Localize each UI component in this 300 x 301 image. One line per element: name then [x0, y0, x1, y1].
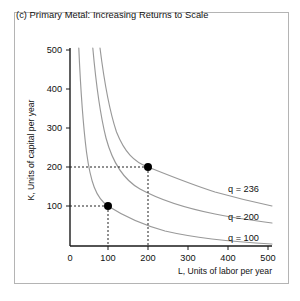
x-tick-label-200: 200 — [140, 253, 155, 263]
y-tick-label-100: 100 — [47, 201, 62, 211]
x-tick-label-100: 100 — [100, 253, 115, 263]
isoquant-chart: 500 400 300 200 100 0 100 200 300 400 50… — [0, 0, 300, 301]
y-tick-label-300: 300 — [47, 123, 62, 133]
y-tick-label-400: 400 — [47, 84, 62, 94]
x-tick-label-0: 0 — [67, 253, 72, 263]
y-tick-label-500: 500 — [47, 45, 62, 55]
curve-label-q200: q = 200 — [228, 212, 259, 222]
x-axis-title: L, Units of labor per year — [178, 266, 272, 276]
y-tick-label-200: 200 — [47, 162, 62, 172]
data-point-b[interactable] — [144, 163, 152, 171]
x-tick-label-400: 400 — [220, 253, 235, 263]
isoquant-curve-q236 — [100, 48, 272, 206]
y-axis-title: K, Units of capital per year — [26, 99, 36, 200]
data-point-a[interactable] — [104, 202, 112, 210]
isoquant-curve-q200 — [93, 48, 272, 223]
x-tick-label-300: 300 — [180, 253, 195, 263]
curve-label-q100: q = 100 — [228, 233, 259, 243]
x-tick-label-500: 500 — [260, 253, 275, 263]
curve-label-q236: q = 236 — [228, 184, 259, 194]
